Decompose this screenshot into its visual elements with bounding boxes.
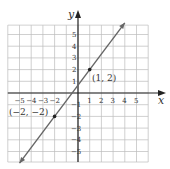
- svg-text:5: 5: [134, 97, 138, 105]
- svg-text:4: 4: [122, 97, 127, 105]
- svg-text:1: 1: [72, 78, 76, 86]
- svg-text:−4: −4: [71, 136, 82, 144]
- svg-text:1: 1: [87, 97, 91, 105]
- svg-text:3: 3: [111, 97, 115, 105]
- svg-text:−1: −1: [71, 101, 81, 109]
- svg-text:−2: −2: [50, 97, 60, 105]
- svg-text:−4: −4: [26, 97, 37, 105]
- svg-text:−5: −5: [71, 148, 81, 156]
- svg-text:3: 3: [72, 54, 76, 62]
- svg-text:2: 2: [72, 66, 76, 74]
- svg-text:5: 5: [72, 31, 76, 39]
- point-label-neg2-neg2: (−2, −2): [9, 107, 48, 117]
- svg-text:−5: −5: [15, 97, 25, 105]
- svg-text:−3: −3: [71, 125, 81, 133]
- point-label-1-2: (1, 2): [92, 73, 116, 83]
- x-axis-label: x: [158, 94, 165, 107]
- svg-text:2: 2: [99, 97, 103, 105]
- coordinate-plane: −5−4−3−21234554321−1−2−3−4−5 x y (1, 2) …: [0, 0, 170, 169]
- y-axis-label: y: [67, 8, 75, 21]
- svg-text:−3: −3: [38, 97, 48, 105]
- svg-text:4: 4: [72, 43, 77, 51]
- svg-text:−2: −2: [71, 113, 81, 121]
